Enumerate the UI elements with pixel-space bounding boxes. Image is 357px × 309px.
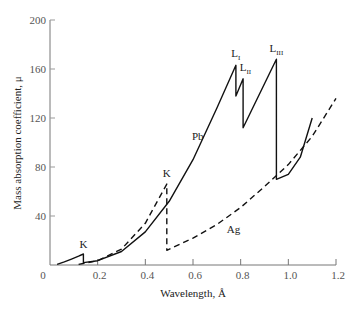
x-tick-label: 0.6 — [188, 269, 202, 281]
plot-series — [57, 59, 336, 264]
annotation-label: Pb — [192, 130, 204, 142]
x-tick-label: 0 — [40, 269, 46, 281]
annotation-label: LI — [231, 47, 241, 62]
annotation-label: LIII — [270, 42, 284, 57]
absorption-chart: 00.20.40.60.81.01.24080120160200 KKPbAgL… — [0, 0, 357, 309]
x-tick-label: 1.0 — [283, 269, 297, 281]
x-tick-label: 0.8 — [236, 269, 250, 281]
y-tick-label: 120 — [30, 112, 47, 124]
annotation-label: K — [79, 238, 87, 250]
annotation-label: Ag — [227, 223, 241, 235]
annotations: KKPbAgLILIILIII — [79, 42, 284, 250]
y-tick-label: 160 — [30, 63, 47, 75]
annotation-label: LII — [240, 61, 252, 76]
x-tick-label: 1.2 — [331, 269, 345, 281]
x-tick-label: 0.4 — [140, 269, 154, 281]
y-tick-label: 40 — [35, 210, 47, 222]
annotation-label: K — [163, 167, 171, 179]
y-tick-label: 80 — [35, 161, 47, 173]
y-axis-title: Mass absorption coefficient, μ — [11, 76, 23, 209]
x-axis-title: Wavelength, Å — [160, 287, 226, 299]
y-tick-label: 200 — [30, 14, 47, 26]
series-pb-line — [57, 59, 312, 264]
x-tick-label: 0.2 — [93, 269, 107, 281]
series-ag-line — [79, 98, 336, 264]
